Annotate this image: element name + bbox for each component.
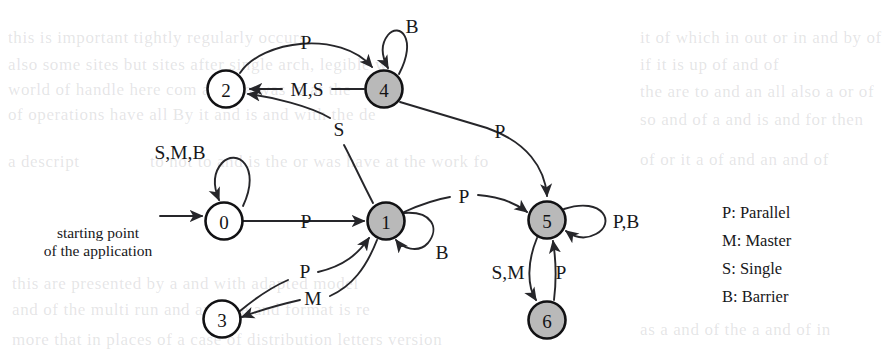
node-1-label: 1 <box>381 212 391 233</box>
edge-labels-layer: S,M,B P P M,S B P S P B P M P,B S,M P <box>155 16 640 309</box>
legend-item-single: S: Single <box>722 259 782 278</box>
start-caption-line-1: starting point <box>57 224 140 241</box>
node-0-label: 0 <box>219 212 229 233</box>
edge-0-self-loop <box>215 158 250 206</box>
legend-item-master: M: Master <box>722 231 792 250</box>
edge-1-to-5-label-S <box>248 94 373 203</box>
edge-label-2-to-4: P <box>301 32 312 53</box>
node-5[interactable]: 5 <box>529 202 566 239</box>
edge-label-5-self: P,B <box>613 211 640 232</box>
edge-label-1-to-5: P <box>459 186 470 207</box>
edge-label-4-self: B <box>405 16 418 37</box>
state-machine-figure: this is important tightly regularly occu… <box>0 0 882 363</box>
node-4-label: 4 <box>379 80 389 101</box>
node-5-label: 5 <box>542 211 552 232</box>
node-3[interactable]: 3 <box>204 301 241 338</box>
edge-label-1-to-3: M <box>304 288 321 309</box>
edge-label-0-to-1: P <box>301 211 312 232</box>
node-2-label: 2 <box>221 80 231 101</box>
node-2[interactable]: 2 <box>208 71 245 108</box>
edge-label-1-self: B <box>435 242 448 263</box>
legend: P: Parallel M: Master S: Single B: Barri… <box>722 203 792 306</box>
edge-label-4-to-2: M,S <box>290 79 323 100</box>
node-0[interactable]: 0 <box>206 203 243 240</box>
edge-5-to-6 <box>529 238 537 300</box>
node-6-label: 6 <box>542 311 552 332</box>
edge-5-self-loop <box>564 206 606 238</box>
edge-label-3-to-1: P <box>300 261 311 282</box>
edge-label-5-to-6: S,M <box>491 262 524 283</box>
node-1[interactable]: 1 <box>368 203 405 240</box>
edge-label-4-to-5: P <box>495 121 506 142</box>
node-6[interactable]: 6 <box>529 302 566 339</box>
edge-label-0-self: S,M,B <box>155 142 206 163</box>
node-4[interactable]: 4 <box>366 71 403 108</box>
legend-item-parallel: P: Parallel <box>722 203 791 222</box>
state-diagram-canvas: S,M,B P P M,S B P S P B P M P,B S,M P 0 … <box>0 0 882 363</box>
node-3-label: 3 <box>217 310 227 331</box>
legend-item-barrier: B: Barrier <box>722 287 789 306</box>
edge-label-1-to-2: S <box>334 119 345 140</box>
edge-label-6-to-5: P <box>556 262 567 283</box>
edge-4-self-loop <box>383 31 407 74</box>
edge-4-to-5 <box>400 102 547 196</box>
start-caption-line-2: of the application <box>44 242 153 259</box>
start-caption: starting point of the application <box>44 224 153 259</box>
